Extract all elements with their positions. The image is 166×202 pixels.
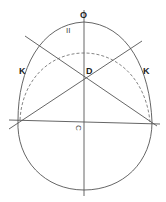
horizontal-chord [9, 120, 160, 124]
diagonal-line-left-to-right [25, 36, 157, 126]
lower-arc [18, 120, 152, 190]
label-d: D [86, 66, 93, 76]
label-c: C [74, 125, 83, 131]
upper-arc [18, 22, 152, 122]
label-k-left: K [19, 66, 26, 76]
egg-construction-diagram: O II D K K C [0, 0, 166, 202]
label-k-right: K [143, 66, 150, 76]
dashed-arc [20, 53, 150, 122]
label-ii: II [66, 26, 70, 35]
diagonal-line-right-to-left [9, 41, 142, 129]
label-o: O [80, 10, 87, 20]
